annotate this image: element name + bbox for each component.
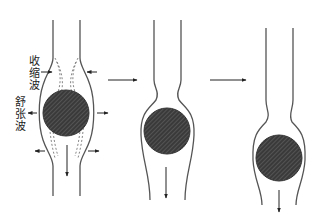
bolus [43, 90, 89, 136]
stage-3 [253, 28, 305, 212]
bolus [256, 135, 302, 181]
stage-2 [141, 20, 194, 200]
stage-1 [28, 20, 108, 196]
contraction-wave-label: 收 缩 波 [28, 56, 40, 92]
bolus [144, 108, 190, 154]
label-char: 波 [14, 121, 26, 133]
relaxation-wave-label: 舒 张 波 [14, 97, 26, 133]
tube-wall-right [290, 28, 305, 205]
tube-wall-left [141, 20, 157, 200]
tube-wall-right [178, 20, 194, 200]
tube-wall-left [253, 28, 268, 205]
label-char: 波 [28, 80, 40, 92]
peristalsis-diagram [0, 0, 322, 224]
